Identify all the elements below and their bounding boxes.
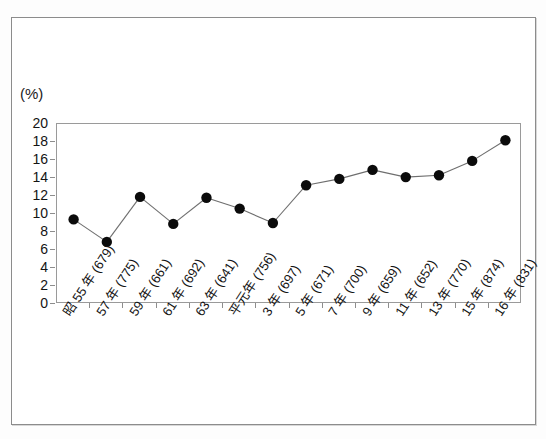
y-tick-label: 6 (40, 242, 48, 256)
y-tick-mark (50, 177, 55, 178)
y-tick-mark (50, 285, 55, 286)
y-tick-mark (50, 159, 55, 160)
y-tick-label: 2 (40, 278, 48, 292)
line-segment (140, 197, 173, 224)
x-tick-mark (455, 303, 456, 308)
data-point (367, 165, 377, 175)
y-tick-label: 4 (40, 260, 48, 274)
y-tick-label: 10 (32, 206, 48, 220)
x-tick-mark (289, 303, 290, 308)
x-tick-mark (488, 303, 489, 308)
x-tick-mark (255, 303, 256, 308)
x-tick-mark (355, 303, 356, 308)
data-point (401, 172, 411, 182)
x-tick-mark (89, 303, 90, 308)
y-tick-mark (50, 303, 55, 304)
y-axis-unit-label: (%) (20, 85, 43, 102)
series-points-group (68, 135, 510, 247)
data-point (434, 170, 444, 180)
data-point (168, 219, 178, 229)
y-tick-mark (50, 141, 55, 142)
x-tick-mark (388, 303, 389, 308)
y-tick-label: 12 (32, 188, 48, 202)
x-tick-mark (222, 303, 223, 308)
line-segment (472, 140, 505, 161)
chart-figure: (%) 02468101214161820 昭 55 年 (679)57 年 (… (0, 0, 546, 439)
y-axis: 02468101214161820 (0, 113, 56, 313)
x-tick-mark (322, 303, 323, 308)
line-segment (206, 198, 239, 209)
y-tick-label: 20 (32, 116, 48, 130)
data-point (135, 192, 145, 202)
data-point (334, 174, 344, 184)
y-tick-label: 14 (32, 170, 48, 184)
data-point (301, 180, 311, 190)
y-tick-label: 8 (40, 224, 48, 238)
series-line-group (74, 140, 506, 242)
data-point (201, 193, 211, 203)
line-segment (240, 209, 273, 223)
line-segment (273, 185, 306, 223)
x-tick-mark (122, 303, 123, 308)
x-tick-mark (189, 303, 190, 308)
data-point (234, 203, 244, 213)
line-segment (107, 197, 140, 242)
data-point (500, 135, 510, 145)
line-segment (74, 219, 107, 242)
data-point (467, 156, 477, 166)
x-tick-mark (421, 303, 422, 308)
data-point (268, 218, 278, 228)
y-tick-mark (50, 213, 55, 214)
y-tick-label: 16 (32, 152, 48, 166)
data-point (68, 214, 78, 224)
y-tick-label: 18 (32, 134, 48, 148)
y-tick-mark (50, 231, 55, 232)
y-tick-mark (50, 195, 55, 196)
line-segment (173, 198, 206, 224)
y-tick-mark (50, 249, 55, 250)
line-segment (439, 161, 472, 175)
y-tick-mark (50, 267, 55, 268)
y-tick-label: 0 (40, 296, 48, 310)
x-tick-mark (156, 303, 157, 308)
